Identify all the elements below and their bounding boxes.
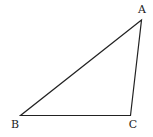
vertex-label-b: B [11,118,19,131]
vertex-label-a: A [137,3,147,16]
triangle-diagram: A B C [0,0,153,137]
triangle-abc [21,20,142,116]
vertex-label-c: C [129,118,137,131]
